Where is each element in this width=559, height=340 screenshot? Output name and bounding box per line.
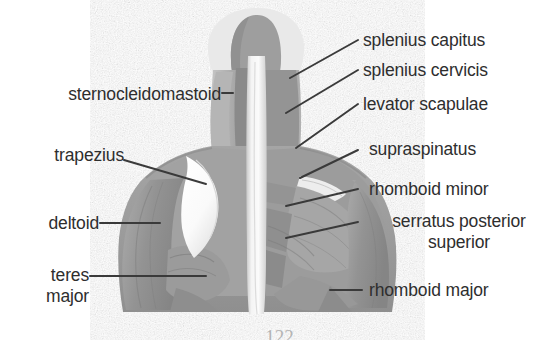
label-splenius-capitus: splenius capitus <box>363 30 485 51</box>
label-splenius-cervicis-text: splenius cervicis <box>363 60 488 80</box>
label-sternocleidomastoid-text: sternocleidomastoid <box>68 84 221 104</box>
label-supraspinatus-text: supraspinatus <box>369 139 476 159</box>
anatomy-figure-page: sternocleidomastoid trapezius deltoid te… <box>0 0 559 340</box>
label-splenius-capitus-text: splenius capitus <box>363 30 485 50</box>
label-teres-major-line1: teres <box>51 265 89 285</box>
label-rhomboid-minor: rhomboid minor <box>369 179 488 200</box>
label-serratus-posterior-superior-line2: superior <box>363 232 555 253</box>
figure-body <box>118 8 396 314</box>
label-supraspinatus: supraspinatus <box>369 139 476 160</box>
label-trapezius: trapezius <box>54 145 124 166</box>
spine-midline <box>246 56 266 314</box>
label-deltoid: deltoid <box>48 213 99 234</box>
label-trapezius-text: trapezius <box>54 145 124 165</box>
label-levator-scapulae-text: levator scapulae <box>363 94 488 114</box>
leader-levator-scapulae <box>296 104 358 148</box>
label-teres-major-line2: major <box>46 286 89 307</box>
label-levator-scapulae: levator scapulae <box>363 94 488 115</box>
label-deltoid-text: deltoid <box>48 213 99 233</box>
label-sternocleidomastoid: sternocleidomastoid <box>68 84 221 105</box>
label-rhomboid-major-text: rhomboid major <box>369 280 488 300</box>
label-serratus-posterior-superior: serratus posterior superior <box>363 211 555 253</box>
label-splenius-cervicis: splenius cervicis <box>363 60 488 81</box>
page-number: 122 <box>0 326 559 340</box>
label-serratus-posterior-superior-line1: serratus posterior <box>392 211 525 231</box>
label-teres-major: teres major <box>46 265 89 307</box>
label-rhomboid-major: rhomboid major <box>369 280 488 301</box>
label-rhomboid-minor-text: rhomboid minor <box>369 179 488 199</box>
